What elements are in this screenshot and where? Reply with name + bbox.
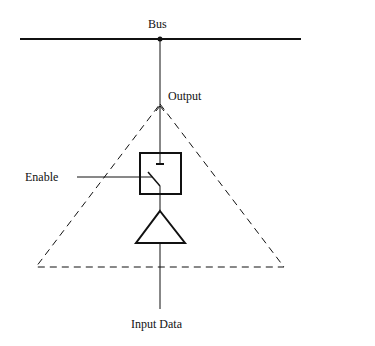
input-data-label: Input Data [131, 317, 183, 331]
output-label: Output [168, 89, 202, 103]
buffer-triangle [136, 211, 185, 243]
bus-label: Bus [148, 17, 167, 31]
tristate-diagram: Bus Output Enable Input Data [0, 0, 375, 346]
enable-label: Enable [25, 170, 58, 184]
switch-blade [148, 172, 160, 186]
